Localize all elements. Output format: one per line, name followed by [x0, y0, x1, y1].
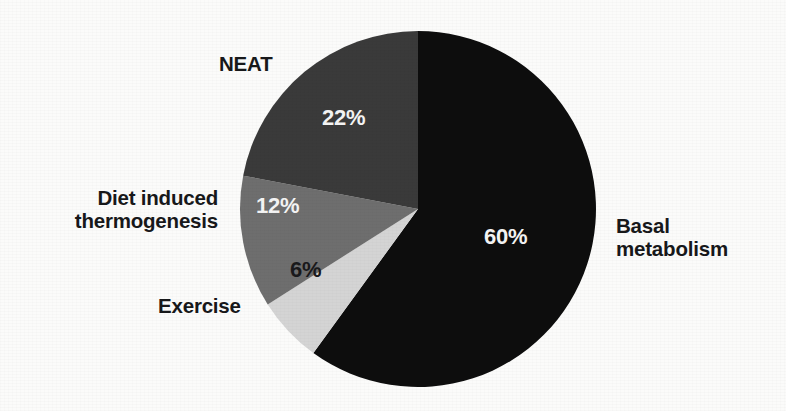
slice-label-basal-line2: metabolism: [616, 237, 728, 260]
slice-label-dit-line2: thermogenesis: [75, 209, 218, 232]
pie-chart-figure: NEAT Diet inducedthermogenesis Exercise …: [0, 0, 786, 411]
slice-label-diet-induced-thermogenesis: Diet inducedthermogenesis: [38, 186, 218, 232]
slice-label-neat: NEAT: [219, 52, 272, 75]
slice-label-dit-line1: Diet induced: [97, 186, 218, 209]
slice-value-diet-induced-thermogenesis: 12%: [256, 194, 299, 218]
slice-value-exercise: 6%: [290, 258, 321, 282]
slice-label-basal-metabolism: Basalmetabolism: [616, 214, 728, 260]
slice-value-neat: 22%: [322, 106, 365, 130]
slice-value-basal-metabolism: 60%: [484, 225, 527, 249]
slice-label-exercise: Exercise: [158, 294, 241, 317]
slice-label-basal-line1: Basal: [616, 214, 670, 237]
